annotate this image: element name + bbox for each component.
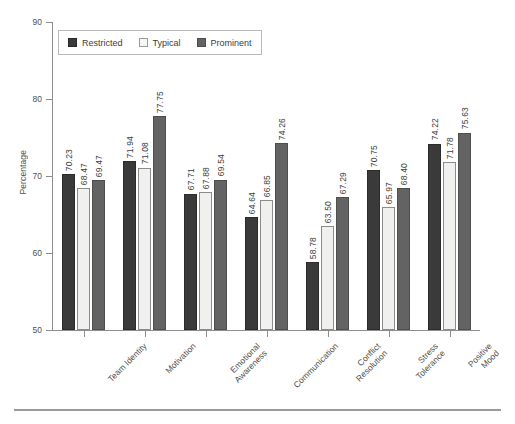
bar[interactable]: [138, 168, 152, 330]
x-axis-tick: [206, 331, 207, 337]
bar[interactable]: [382, 207, 396, 330]
bar-value-label: 68.40: [399, 163, 409, 185]
bar[interactable]: [214, 180, 228, 330]
bar-value-label: 74.26: [277, 118, 287, 140]
bar[interactable]: [77, 188, 91, 330]
x-axis-category-label: Communication: [291, 341, 340, 390]
y-axis-tick: [46, 22, 53, 23]
bar[interactable]: [367, 170, 381, 330]
x-axis-tick: [389, 331, 390, 337]
bar-value-label: 67.29: [338, 172, 348, 194]
bar-value-label: 74.22: [430, 118, 440, 140]
plot-area: 70.2368.4769.4771.9471.0877.7567.7167.88…: [53, 22, 480, 330]
bar[interactable]: [260, 200, 274, 330]
bar[interactable]: [443, 162, 457, 330]
bar[interactable]: [199, 192, 213, 330]
y-axis-tick: [46, 253, 53, 254]
legend-label: Typical: [153, 38, 181, 48]
bar-group: 70.2368.4769.47: [62, 22, 106, 330]
bar-value-label: 77.75: [155, 91, 165, 113]
bar-value-label: 67.71: [186, 168, 196, 190]
x-axis-tick: [328, 331, 329, 337]
bar-value-label: 70.23: [64, 149, 74, 171]
bar-value-label: 63.50: [323, 201, 333, 223]
x-axis-tick: [145, 331, 146, 337]
bar-value-label: 67.88: [201, 167, 211, 189]
bar[interactable]: [245, 217, 259, 330]
y-axis-tick: [46, 330, 53, 331]
bar-chart-figure: Percentage 5060708090 70.2368.4769.4771.…: [0, 0, 515, 424]
bar[interactable]: [397, 188, 411, 330]
bar-value-label: 68.47: [79, 163, 89, 185]
legend-swatch-icon: [68, 38, 77, 47]
legend-label: Prominent: [211, 38, 252, 48]
x-axis-category-label: PositiveMood: [465, 341, 500, 376]
bar-value-label: 71.94: [125, 136, 135, 158]
legend-item[interactable]: Prominent: [197, 38, 252, 48]
x-axis-tick: [450, 331, 451, 337]
legend-label: Restricted: [82, 38, 123, 48]
bar-value-label: 64.64: [247, 192, 257, 214]
bar-value-label: 71.78: [445, 137, 455, 159]
y-axis-tick-label: 90: [16, 17, 42, 27]
y-axis-tick-label: 60: [16, 248, 42, 258]
legend-item[interactable]: Typical: [139, 38, 181, 48]
bar[interactable]: [153, 116, 167, 330]
bar[interactable]: [184, 194, 198, 330]
bar[interactable]: [62, 174, 76, 330]
x-axis-tick: [84, 331, 85, 337]
legend-swatch-icon: [197, 38, 206, 47]
bar[interactable]: [336, 197, 350, 330]
y-axis-tick-label: 70: [16, 171, 42, 181]
bar-value-label: 75.63: [460, 107, 470, 129]
y-axis-tick: [46, 176, 53, 177]
bar-value-label: 71.08: [140, 142, 150, 164]
x-axis-category-label: Motivation: [163, 341, 197, 375]
footer-rule: [14, 409, 501, 411]
x-axis-category-label: ConflictResolution: [346, 341, 389, 384]
chart-legend: RestrictedTypicalProminent: [58, 30, 262, 55]
bar-value-label: 69.47: [94, 155, 104, 177]
bar[interactable]: [458, 133, 472, 330]
x-axis-category-line: Motivation: [163, 341, 197, 375]
bar-group: 58.7863.5067.29: [306, 22, 350, 330]
bar[interactable]: [275, 143, 289, 330]
bar-value-label: 66.85: [262, 175, 272, 197]
x-axis-category-label: Team Identity: [105, 341, 148, 384]
bar-group: 64.6466.8574.26: [245, 22, 289, 330]
bar[interactable]: [306, 262, 320, 330]
bar-group: 70.7565.9768.40: [367, 22, 411, 330]
bar[interactable]: [92, 180, 106, 330]
bar[interactable]: [321, 226, 335, 330]
bar-group: 71.9471.0877.75: [123, 22, 167, 330]
legend-swatch-icon: [139, 38, 148, 47]
bar-group: 67.7167.8869.54: [184, 22, 228, 330]
x-axis-category-line: Communication: [291, 341, 340, 390]
x-axis-category-label: StressTolerance: [406, 341, 446, 381]
bar-group: 74.2271.7875.63: [428, 22, 472, 330]
y-axis-tick: [46, 99, 53, 100]
legend-item[interactable]: Restricted: [68, 38, 123, 48]
x-axis-category-line: Team Identity: [105, 341, 148, 384]
bar[interactable]: [123, 161, 137, 330]
bar-value-label: 65.97: [384, 182, 394, 204]
y-axis-tick-label: 80: [16, 94, 42, 104]
bar-value-label: 70.75: [369, 145, 379, 167]
x-axis-category-label: EmotionalAwareness: [225, 341, 269, 385]
y-axis-tick-label: 50: [16, 325, 42, 335]
x-axis-tick: [267, 331, 268, 337]
bar-value-label: 69.54: [216, 154, 226, 176]
bar-value-label: 58.78: [308, 237, 318, 259]
bar[interactable]: [428, 144, 442, 330]
